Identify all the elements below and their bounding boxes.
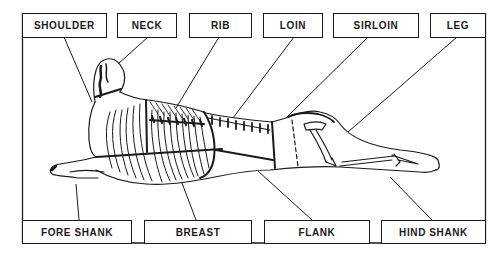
leader-neck: [118, 37, 148, 64]
carcass-illustration: [50, 59, 439, 185]
label-leg: LEG: [430, 13, 486, 38]
loin-flank-division: [216, 150, 273, 160]
label-sirloin: SIRLOIN: [333, 13, 419, 38]
label-loin: LOIN: [263, 13, 323, 38]
leader-shoulder: [64, 37, 92, 102]
label-text: LOIN: [280, 20, 306, 31]
neck-division: [95, 89, 121, 97]
carcass-diagram: [0, 0, 504, 255]
shoulder-rib-division: [146, 100, 147, 152]
leader-loin: [233, 37, 294, 118]
label-text: FLANK: [299, 227, 336, 238]
sirloin-leg-division: [292, 120, 298, 167]
leader-fore-shank: [76, 184, 79, 220]
leader-leg: [348, 37, 457, 132]
label-text: SHOULDER: [34, 20, 95, 31]
shoulder-outline: [89, 102, 96, 157]
label-text: RIB: [211, 20, 230, 31]
label-text: HIND SHANK: [399, 227, 468, 238]
leader-rib: [176, 37, 219, 108]
label-neck: NECK: [117, 13, 177, 38]
label-rib: RIB: [189, 13, 252, 38]
label-text: NECK: [132, 20, 163, 31]
label-fore-shank: FORE SHANK: [22, 220, 132, 244]
label-text: SIRLOIN: [354, 20, 399, 31]
leader-flank: [258, 171, 312, 220]
label-hind-shank: HIND SHANK: [381, 220, 486, 244]
leader-sirloin: [286, 37, 368, 118]
fore-shank-outline: [50, 157, 104, 178]
leader-breast: [182, 183, 196, 220]
loin-sirloin-division: [272, 122, 275, 168]
label-flank: FLANK: [264, 220, 370, 244]
leader-hind-shank: [390, 177, 432, 220]
frame: [22, 13, 486, 243]
back-outline: [120, 92, 436, 158]
label-breast: BREAST: [144, 220, 252, 244]
label-text: LEG: [447, 20, 469, 31]
label-text: BREAST: [176, 227, 221, 238]
label-text: FORE SHANK: [41, 227, 113, 238]
label-shoulder: SHOULDER: [22, 13, 107, 38]
ribs: [106, 104, 209, 182]
